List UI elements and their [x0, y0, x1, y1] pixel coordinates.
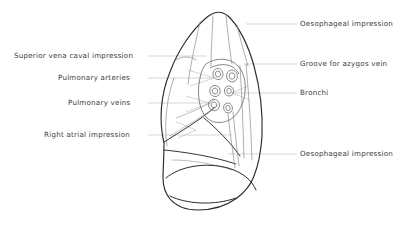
hilar-oval-4 — [224, 85, 235, 96]
leader-fan-veins-b — [186, 103, 210, 112]
hilum-boundary — [198, 59, 245, 122]
leader-fan-veins-a — [186, 96, 210, 103]
azygos-groove-line-1 — [240, 66, 244, 158]
label-groove-for-azygos-vein: Groove for azygos vein — [300, 60, 387, 67]
hilar-oval-3 — [208, 84, 222, 98]
diaphragmatic-surface — [166, 165, 256, 190]
azygos-groove-line-2 — [246, 64, 252, 160]
apex-ridge-2 — [211, 16, 213, 66]
label-bronchi: Bronchi — [300, 89, 329, 96]
label-pulmonary-veins: Pulmonary veins — [68, 99, 131, 106]
posterior-striations-group — [228, 64, 252, 168]
horizontal-fissure — [204, 118, 240, 156]
label-pulmonary-arteries: Pulmonary arteries — [58, 74, 130, 81]
lung-anatomy-figure: Superior vena caval impression Pulmonary… — [0, 0, 408, 228]
lung-base-group — [166, 165, 256, 203]
leader-fan-arteries-b — [190, 78, 214, 86]
hilum-group — [198, 59, 245, 122]
label-oesophageal-impression-upper: Oesophageal impression — [300, 20, 393, 27]
hilar-oval-1 — [212, 67, 225, 80]
lung-diagram-svg — [0, 0, 408, 228]
hilum-inner-contour — [210, 65, 239, 74]
label-right-atrial-impression: Right atrial impression — [44, 131, 130, 138]
leader-fan-bronchi-b — [232, 93, 250, 100]
hilar-oval-2 — [226, 69, 239, 83]
inferior-border — [170, 196, 236, 203]
hilar-oval-6 — [222, 102, 233, 114]
apex-ridge-3 — [226, 16, 232, 64]
label-oesophageal-impression-lower: Oesophageal impression — [300, 150, 393, 157]
apex-ridge-1 — [188, 22, 200, 84]
superior-vena-caval-groove — [176, 57, 196, 60]
label-superior-vena-caval-impression: Superior vena caval impression — [14, 52, 133, 59]
hilar-structures-group — [207, 67, 239, 114]
